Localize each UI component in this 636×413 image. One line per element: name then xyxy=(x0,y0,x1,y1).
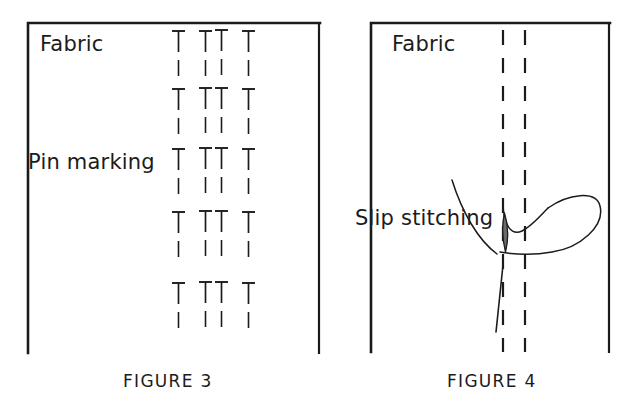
figure-4-fabric-label: Fabric xyxy=(392,34,456,55)
illustration-page: Fabric Pin marking FIGURE 3 Fabric Slip … xyxy=(0,0,636,413)
pin-row-5 xyxy=(172,282,255,328)
pin xyxy=(242,283,255,328)
needle-eye xyxy=(503,213,508,252)
pin xyxy=(242,212,255,257)
pin xyxy=(215,88,228,133)
fold-lines xyxy=(503,30,525,352)
figure-3-pin-marking-label: Pin marking xyxy=(28,152,155,173)
pin xyxy=(215,211,228,256)
pin xyxy=(242,149,255,194)
pin-row-2 xyxy=(172,88,255,134)
figure-3-frame xyxy=(28,23,320,353)
pin xyxy=(215,30,228,75)
figure-4-caption: FIGURE 4 xyxy=(447,371,537,391)
needle xyxy=(496,213,508,332)
figure-3-caption: FIGURE 3 xyxy=(123,371,213,391)
pin xyxy=(242,89,255,134)
pin xyxy=(172,89,185,134)
pin-row-3 xyxy=(172,148,255,194)
pin xyxy=(215,148,228,193)
pin xyxy=(172,212,185,257)
figure-4-slip-stitching-label: Slip stitching xyxy=(355,208,493,229)
pin xyxy=(172,149,185,194)
pin-row-1 xyxy=(172,30,255,76)
thread-loop xyxy=(500,196,601,255)
pin xyxy=(199,282,212,327)
pin xyxy=(172,283,185,328)
pin-row-4 xyxy=(172,211,255,257)
pin-grid xyxy=(172,30,255,328)
pin xyxy=(199,88,212,133)
figure-3-fabric-label: Fabric xyxy=(40,34,104,55)
figures-canvas xyxy=(0,0,636,413)
pin xyxy=(199,31,212,76)
pin xyxy=(215,282,228,327)
pin xyxy=(199,211,212,256)
pin xyxy=(199,148,212,193)
figure-4-frame xyxy=(371,23,610,352)
pin xyxy=(172,31,185,76)
pin xyxy=(242,31,255,76)
